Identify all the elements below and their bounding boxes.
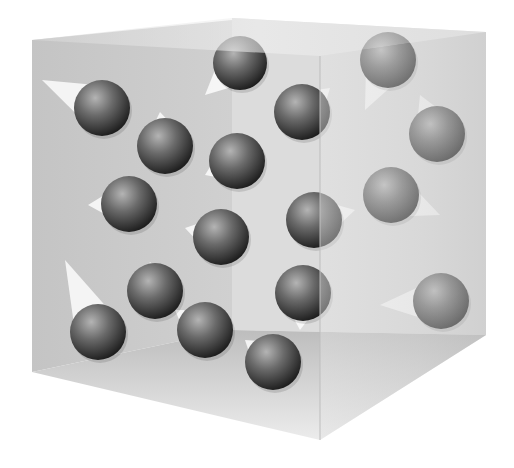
gas-particle-sphere xyxy=(101,176,157,232)
gas-particle-sphere xyxy=(74,80,130,136)
gas-particle-sphere xyxy=(193,209,249,265)
gas-particles-in-box-diagram xyxy=(0,0,514,468)
gas-particle-sphere xyxy=(177,302,233,358)
gas-particle-sphere xyxy=(137,118,193,174)
gas-particle-sphere xyxy=(70,304,126,360)
box-right-face xyxy=(320,32,486,440)
gas-particle-sphere xyxy=(127,263,183,319)
gas-particle-sphere xyxy=(245,334,301,390)
gas-particle-sphere xyxy=(209,133,265,189)
box-illustration xyxy=(0,0,514,468)
